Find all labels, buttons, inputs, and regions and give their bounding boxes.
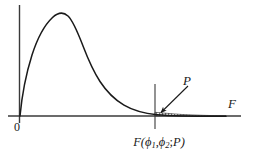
f-distribution-figure: 0 F P F(ϕ1,ϕ2;P) bbox=[0, 0, 254, 160]
origin-label: 0 bbox=[14, 121, 20, 133]
tail-leader-line bbox=[161, 86, 188, 113]
critical-value-p-symbol: P bbox=[173, 135, 181, 149]
critical-value-suffix: ) bbox=[181, 135, 185, 149]
x-axis-label: F bbox=[228, 97, 236, 110]
critical-value-prefix: F( bbox=[133, 135, 145, 149]
figure-canvas bbox=[0, 0, 254, 160]
density-curve bbox=[20, 13, 226, 116]
tail-probability-label: P bbox=[183, 74, 191, 87]
critical-value-label: F(ϕ1,ϕ2;P) bbox=[133, 136, 185, 150]
